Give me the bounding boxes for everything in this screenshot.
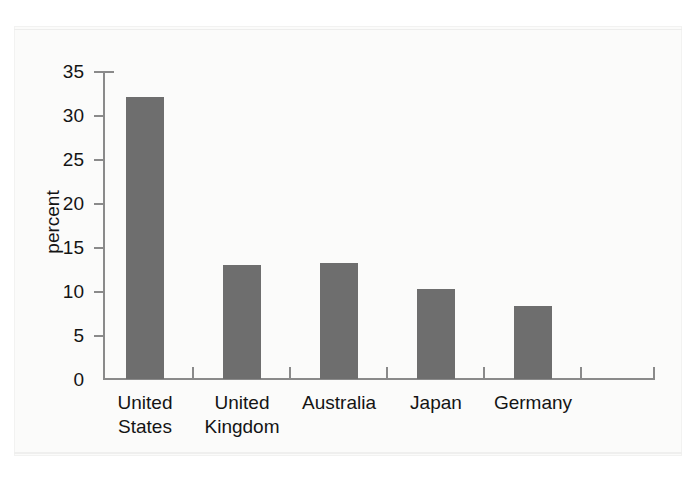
bar-united-kingdom (223, 265, 261, 379)
y-tick-15 (94, 247, 105, 249)
y-tick-label-0: 0 (44, 370, 84, 389)
plot-area: percent 35 30 25 20 15 10 5 0 UnitedStat… (0, 0, 696, 479)
x-tick-5 (580, 367, 582, 380)
y-tick-label-35: 35 (44, 62, 84, 81)
x-axis-line (103, 378, 655, 380)
y-tick-20 (94, 203, 105, 205)
x-tick-3 (386, 367, 388, 380)
x-axis-right-cap (653, 367, 655, 380)
bar-united-states (126, 97, 164, 379)
bar-australia (320, 263, 358, 379)
x-label-line-1: United (118, 392, 173, 413)
y-tick-5 (94, 335, 105, 337)
x-label-germany: Germany (478, 391, 588, 415)
y-tick-label-25: 25 (44, 150, 84, 169)
x-label-australia: Australia (284, 391, 394, 415)
bar-japan (417, 289, 455, 379)
x-label-line-2: States (118, 416, 172, 437)
y-tick-label-10: 10 (44, 282, 84, 301)
x-tick-2 (289, 367, 291, 380)
y-tick-10 (94, 291, 105, 293)
y-tick-label-20: 20 (44, 194, 84, 213)
y-tick-label-5: 5 (44, 326, 84, 345)
x-label-united-kingdom: UnitedKingdom (187, 391, 297, 439)
x-tick-4 (483, 367, 485, 380)
bar-germany (514, 306, 552, 379)
x-label-line-1: United (215, 392, 270, 413)
y-tick-label-30: 30 (44, 106, 84, 125)
y-axis-title: percent (43, 167, 62, 277)
bar-chart-figure: percent 35 30 25 20 15 10 5 0 UnitedStat… (0, 0, 696, 479)
x-tick-1 (192, 367, 194, 380)
y-tick-label-15: 15 (44, 238, 84, 257)
x-label-line-2: Kingdom (205, 416, 280, 437)
y-axis-line (103, 71, 105, 380)
y-tick-30 (94, 115, 105, 117)
y-tick-35 (94, 71, 105, 73)
x-label-united-states: UnitedStates (95, 391, 195, 439)
y-tick-25 (94, 159, 105, 161)
x-label-japan: Japan (386, 391, 486, 415)
